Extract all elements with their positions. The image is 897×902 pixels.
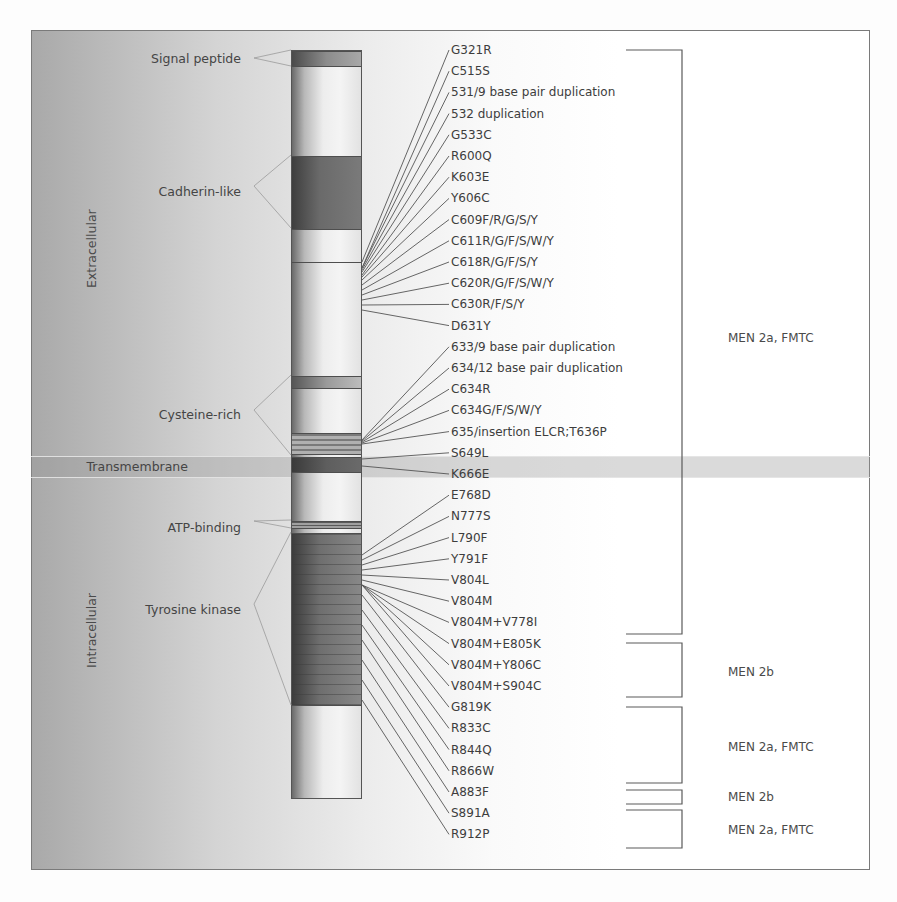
mutation-label: E768D <box>451 488 491 502</box>
mutation-label: 635/insertion ELCR;T636P <box>451 425 607 439</box>
mutation-label: C630R/F/S/Y <box>451 297 525 311</box>
mutation-label: R600Q <box>451 149 492 163</box>
mutation-label: 532 duplication <box>451 107 544 121</box>
mutation-label: S649L <box>451 446 488 460</box>
ret-protein-diagram: Extracellular Intracellular Signal pepti… <box>0 0 897 902</box>
syndrome-label-men2b-1: MEN 2b <box>728 665 774 679</box>
mutation-label: L790F <box>451 531 488 545</box>
mutation-label: V804M+Y806C <box>451 658 541 672</box>
mutation-label: R866W <box>451 764 494 778</box>
syndrome-label-men2a-fmtc-2: MEN 2a, FMTC <box>728 740 814 754</box>
mutation-label: V804M+E805K <box>451 637 541 651</box>
mutation-label: 634/12 base pair duplication <box>451 361 623 375</box>
mutation-label: A883F <box>451 785 489 799</box>
mutation-label: C634R <box>451 382 491 396</box>
mutation-label: D631Y <box>451 319 490 333</box>
mutation-label: V804L <box>451 573 489 587</box>
mutation-label: V804M+S904C <box>451 679 541 693</box>
mutation-label: R912P <box>451 827 489 841</box>
mutation-label: Y606C <box>451 191 490 205</box>
mutation-label: G533C <box>451 128 492 142</box>
mutation-label: Y791F <box>451 552 488 566</box>
mutation-label: V804M+V778I <box>451 615 537 629</box>
mutation-label: N777S <box>451 509 491 523</box>
mutation-label: S891A <box>451 806 490 820</box>
syndrome-label-men2a-fmtc-3: MEN 2a, FMTC <box>728 823 814 837</box>
mutation-label: 633/9 base pair duplication <box>451 340 615 354</box>
mutation-label: C515S <box>451 64 490 78</box>
mutation-label: C618R/G/F/S/Y <box>451 255 538 269</box>
mutation-label: C620R/G/F/S/W/Y <box>451 276 554 290</box>
mutation-label: G321R <box>451 43 492 57</box>
mutation-connector-lines <box>0 0 897 902</box>
mutation-label: K603E <box>451 170 489 184</box>
mutation-label: R844Q <box>451 743 492 757</box>
mutation-label: R833C <box>451 721 491 735</box>
mutation-label: V804M <box>451 594 492 608</box>
mutation-label: K666E <box>451 467 489 481</box>
mutation-label: C634G/F/S/W/Y <box>451 403 541 417</box>
syndrome-label-men2b-2: MEN 2b <box>728 790 774 804</box>
syndrome-label-men2a-fmtc-1: MEN 2a, FMTC <box>728 331 814 345</box>
mutation-label: 531/9 base pair duplication <box>451 85 615 99</box>
mutation-label: G819K <box>451 700 491 714</box>
mutation-label: C611R/G/F/S/W/Y <box>451 234 554 248</box>
mutation-label: C609F/R/G/S/Y <box>451 213 538 227</box>
